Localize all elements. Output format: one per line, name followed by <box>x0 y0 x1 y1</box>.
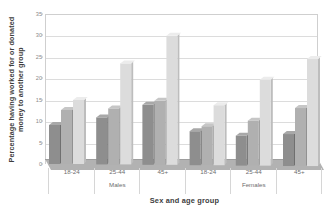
bar-face <box>49 125 60 164</box>
bar-side <box>271 77 273 166</box>
bar <box>142 105 153 165</box>
bar-group <box>236 16 281 172</box>
y-axis-tick-mark <box>41 121 43 122</box>
bar <box>167 36 178 165</box>
bar-group <box>142 15 188 171</box>
y-axis-tick-mark <box>41 78 43 79</box>
bar-groups <box>45 14 324 170</box>
bar <box>236 136 247 166</box>
bar <box>283 134 294 166</box>
bar-face <box>142 105 153 165</box>
bar-face <box>236 136 247 166</box>
x-axis-category-label: 18-24 <box>186 168 232 176</box>
y-axis-tick-mark <box>41 14 43 15</box>
bar-face <box>61 110 72 164</box>
bar-face <box>96 117 107 164</box>
bar-side <box>178 33 180 165</box>
x-axis-title: Sex and age group <box>45 196 324 205</box>
bar <box>307 59 318 166</box>
bar-face <box>189 131 200 165</box>
bar <box>61 110 72 164</box>
bar <box>49 125 60 164</box>
y-axis-ticks: 05101520253035 <box>28 0 42 215</box>
x-axis-category-label: 25-44 <box>231 168 277 176</box>
bar-face <box>201 127 212 166</box>
x-axis-sex-labels: MalesFemales <box>45 181 324 193</box>
bar <box>120 64 131 165</box>
bar-side <box>84 97 86 164</box>
bar-group <box>96 14 142 170</box>
y-axis-tick-mark <box>41 35 43 36</box>
bar <box>96 117 107 164</box>
bar-group <box>49 14 95 170</box>
bar <box>189 131 200 165</box>
bar-face <box>167 36 178 165</box>
bar-face <box>283 134 294 166</box>
x-axis-sex-label: Females <box>186 181 323 189</box>
bar-face <box>73 100 84 164</box>
bar <box>201 127 212 166</box>
y-axis-tick-mark <box>41 56 43 57</box>
y-axis-title-line-2: money to another group <box>17 17 26 163</box>
bar <box>260 80 271 166</box>
bar-face <box>248 121 259 166</box>
bar <box>73 100 84 164</box>
sex-separator <box>321 168 322 194</box>
bar-face <box>295 108 306 166</box>
bar-chart: Percentage having worked for or donated … <box>0 0 326 215</box>
x-axis-category-label: 18-24 <box>49 168 95 176</box>
bar-face <box>213 105 224 165</box>
bar-face <box>307 59 318 166</box>
y-axis-tick-mark <box>41 142 43 143</box>
bar-side <box>318 56 320 166</box>
y-axis-tick-mark <box>41 164 43 165</box>
y-axis-tick-mark <box>41 99 43 100</box>
bar <box>295 108 306 166</box>
bar-face <box>120 64 131 165</box>
bar-group <box>189 15 235 171</box>
bar <box>155 101 166 165</box>
bar <box>108 109 119 165</box>
bar-face <box>155 101 166 165</box>
sex-separator <box>185 168 186 194</box>
x-axis-sex-label: Males <box>49 181 186 189</box>
x-axis-category-label: 25-44 <box>95 168 141 176</box>
bar-side <box>224 102 226 165</box>
x-axis-category-label: 45+ <box>277 168 323 176</box>
sex-separator <box>48 168 49 194</box>
bar-side <box>131 61 133 165</box>
bar-face <box>108 109 119 165</box>
bar-face <box>260 80 271 166</box>
bar-group <box>283 16 326 172</box>
bar <box>213 105 224 165</box>
bar <box>248 121 259 166</box>
x-axis-category-label: 45+ <box>140 168 186 176</box>
